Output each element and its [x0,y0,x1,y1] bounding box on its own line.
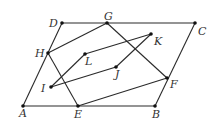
point-d [60,21,64,25]
point-i [49,85,53,89]
point-label-i: I [40,82,46,95]
point-h [46,51,50,55]
segment-eh [48,53,78,106]
point-label-a: A [18,107,27,120]
geometry-diagram: ABCDEFGHIJKL [0,0,216,128]
point-f [165,76,169,80]
segments-layer [23,23,195,106]
point-c [193,21,197,25]
point-label-d: D [48,17,58,30]
point-label-f: F [169,78,178,91]
segment-fe [78,78,167,106]
point-k [149,32,153,36]
point-label-c: C [198,25,207,38]
point-label-e: E [73,108,82,121]
point-label-l: L [84,55,92,68]
labels-layer: ABCDEFGHIJKL [18,10,207,121]
point-label-h: H [34,47,45,60]
point-label-g: G [104,10,113,23]
point-label-j: J [113,68,120,81]
point-label-k: K [153,35,163,48]
point-label-b: B [151,108,160,121]
points-layer [21,21,197,108]
